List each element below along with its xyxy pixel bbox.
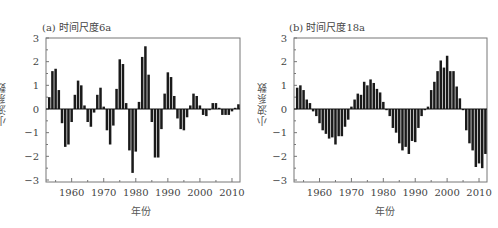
bar xyxy=(86,109,89,122)
bar xyxy=(125,103,128,109)
bar-chart-a: −3−2−10123196019701980199020002010 xyxy=(0,0,249,228)
bar xyxy=(398,109,400,143)
bar-chart-b: −3−2−10123196019701980199020002010 xyxy=(249,0,498,228)
bar xyxy=(481,109,483,168)
bar xyxy=(167,72,170,109)
bar xyxy=(478,109,480,163)
bar xyxy=(224,109,227,115)
bar xyxy=(77,81,80,109)
bar xyxy=(465,109,467,130)
chart-panel-b: (b) 时间尺度18a 小波系数 年份 −3−2−101231960197019… xyxy=(249,0,498,228)
bar xyxy=(51,71,54,109)
bar xyxy=(160,109,163,129)
y-tick-label: 2 xyxy=(33,56,39,67)
bar xyxy=(163,94,166,109)
bar xyxy=(122,64,125,109)
bar xyxy=(299,85,301,109)
bar xyxy=(64,109,67,147)
bar xyxy=(183,109,186,130)
y-tick-label: 3 xyxy=(33,33,39,44)
bar xyxy=(58,90,61,109)
x-axis-label-a: 年份 xyxy=(131,203,151,218)
x-tick-label: 1960 xyxy=(307,187,332,198)
y-tick-label: −3 xyxy=(272,175,287,186)
bar xyxy=(376,89,378,109)
bar xyxy=(106,109,109,130)
y-tick-label: −1 xyxy=(272,127,287,138)
bar xyxy=(80,85,83,109)
bar xyxy=(315,109,317,116)
bar xyxy=(205,109,208,116)
y-tick-label: −2 xyxy=(24,151,39,162)
bar xyxy=(471,109,473,150)
bar xyxy=(334,109,336,145)
bar xyxy=(202,109,205,115)
bar xyxy=(215,103,218,109)
bar xyxy=(401,109,403,150)
y-tick-label: −2 xyxy=(272,151,287,162)
bar xyxy=(436,71,438,109)
bar xyxy=(302,90,304,109)
bar xyxy=(331,109,333,137)
bar xyxy=(328,109,330,139)
bar xyxy=(135,109,138,152)
bar xyxy=(433,82,435,109)
bar xyxy=(363,82,365,109)
bar xyxy=(484,109,486,154)
bar xyxy=(74,95,77,109)
bar xyxy=(341,109,343,136)
bar xyxy=(321,109,323,130)
bar xyxy=(468,109,470,143)
bar xyxy=(192,94,195,109)
bar xyxy=(411,109,413,141)
bar xyxy=(360,95,362,109)
y-tick-label: 1 xyxy=(33,80,39,91)
bar xyxy=(475,109,477,167)
bar xyxy=(366,85,368,109)
bar xyxy=(379,92,381,109)
bar xyxy=(408,109,410,154)
bar xyxy=(392,109,394,128)
bar xyxy=(417,109,419,128)
bar xyxy=(237,104,240,109)
bar xyxy=(112,109,115,126)
bar xyxy=(221,109,224,115)
bar xyxy=(173,96,176,109)
bar xyxy=(344,109,346,127)
bar xyxy=(449,71,451,109)
bar xyxy=(90,109,93,127)
bar xyxy=(176,109,179,118)
bar xyxy=(211,103,214,109)
bar xyxy=(369,79,371,109)
x-tick-label: 1980 xyxy=(123,187,148,198)
x-tick-label: 1970 xyxy=(91,187,116,198)
y-tick-label: 3 xyxy=(281,33,287,44)
bar xyxy=(48,97,51,109)
x-tick-label: 1990 xyxy=(402,187,427,198)
bar xyxy=(170,77,173,109)
bar xyxy=(179,109,182,129)
x-tick-label: 1980 xyxy=(371,187,396,198)
bar xyxy=(430,90,432,109)
bar xyxy=(382,102,384,109)
bar xyxy=(147,75,150,109)
bar xyxy=(67,109,70,145)
bar xyxy=(414,109,416,142)
bar xyxy=(353,100,355,109)
bar xyxy=(157,109,160,158)
bar xyxy=(54,69,57,109)
bar xyxy=(115,89,118,109)
bar xyxy=(452,71,454,109)
chart-panel-a: (a) 时间尺度6a 小波系数 −3−2−1012319601970198019… xyxy=(0,0,249,228)
bar xyxy=(459,98,461,109)
bar xyxy=(99,88,102,109)
bar xyxy=(154,109,157,158)
bar xyxy=(195,96,198,109)
bar xyxy=(128,109,131,150)
bar xyxy=(309,103,311,109)
y-tick-label: −1 xyxy=(24,127,39,138)
bar xyxy=(373,83,375,109)
bar xyxy=(404,109,406,147)
bar xyxy=(388,109,390,116)
bar xyxy=(347,109,349,120)
